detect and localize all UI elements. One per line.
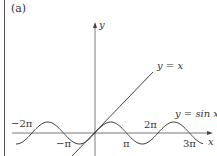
y-axis-arrow-icon [93,22,97,28]
tick-neg-pi: −π [56,139,71,149]
plot-canvas [0,0,217,156]
x-axis-label: x [208,137,214,147]
x-axis-arrow-icon [207,131,213,135]
tick-neg-two-pi: −2π [11,119,32,129]
curve-label: y = sin x [175,109,217,119]
panel-label: (a) [11,3,26,14]
tick-pi: π [123,139,130,149]
tick-three-pi: 3π [183,139,196,149]
line-label: y = x [157,61,183,71]
y-axis-label: y [99,20,105,30]
tick-two-pi: 2π [144,120,157,130]
figure: (a) y x y = x y = sin x −2π −π π 2π 3π [0,0,217,156]
